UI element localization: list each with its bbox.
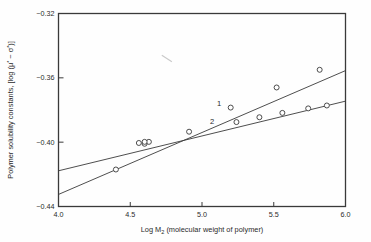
series-label-1: 1 bbox=[217, 99, 221, 108]
data-point-s2-2 bbox=[187, 129, 192, 134]
figure-container: 4.04.55.05.56.0 −0.44−0.40−0.36−0.32 12 … bbox=[0, 0, 371, 242]
x-tick-label-3: 5.5 bbox=[269, 210, 279, 219]
data-point-s1-5 bbox=[317, 67, 322, 72]
x-axis-title: Log M2 (molecular weight of polymer) bbox=[141, 225, 264, 235]
data-point-s1-3 bbox=[228, 105, 233, 110]
series-label-2: 2 bbox=[210, 117, 214, 126]
data-point-s1-4 bbox=[274, 85, 279, 90]
x-tick-label-0: 4.0 bbox=[54, 210, 64, 219]
solubility-constants-line-chart: 4.04.55.05.56.0 −0.44−0.40−0.36−0.32 12 … bbox=[0, 0, 371, 242]
data-point-s2-7 bbox=[324, 103, 329, 108]
y-title-tail: )] bbox=[6, 41, 15, 46]
x-tick-label-1: 4.5 bbox=[125, 210, 135, 219]
chart-background bbox=[0, 0, 371, 242]
data-point-s2-3 bbox=[234, 120, 239, 125]
data-point-s2-6 bbox=[306, 106, 311, 111]
x-tick-label-4: 6.0 bbox=[341, 210, 351, 219]
data-point-s2-0 bbox=[136, 140, 141, 145]
y-title-minus: − bbox=[6, 52, 15, 60]
x-title-suffix: (molecular weight of polymer) bbox=[164, 225, 263, 234]
y-tick-label-2: −0.36 bbox=[36, 73, 54, 82]
y-tick-label-1: −0.40 bbox=[36, 138, 54, 147]
data-point-s2-1 bbox=[142, 139, 147, 144]
data-point-s2-4 bbox=[257, 115, 262, 120]
data-point-s2-5 bbox=[280, 110, 285, 115]
y-tick-label-3: −0.32 bbox=[36, 9, 54, 18]
y-title-lead: Polymer solubility constants, [log ( bbox=[6, 67, 15, 179]
x-tick-label-2: 5.0 bbox=[197, 210, 207, 219]
y-tick-label-0: −0.44 bbox=[36, 202, 54, 211]
x-title-prefix: Log M bbox=[141, 225, 162, 234]
data-point-s1-0 bbox=[113, 167, 118, 172]
